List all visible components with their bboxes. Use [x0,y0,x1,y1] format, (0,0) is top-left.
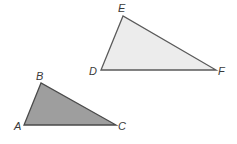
vertex-label-e: E [118,2,126,14]
triangle-def [101,16,216,70]
vertex-label-f: F [218,65,226,77]
vertex-label-c: C [118,120,126,132]
triangle-abc [24,83,116,125]
vertex-label-b: B [36,70,43,82]
vertex-label-a: A [13,120,21,132]
vertex-label-d: D [89,65,97,77]
similar-triangles-diagram: E D F B A C [0,0,237,144]
